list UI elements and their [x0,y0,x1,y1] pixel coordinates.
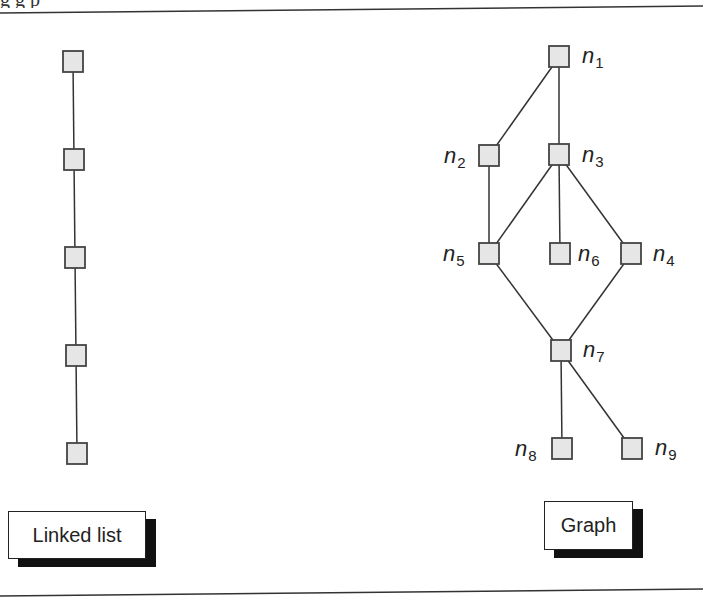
graph-nodes [479,46,642,459]
graph-node-n7 [551,340,571,361]
graph-edge [489,155,559,254]
linked-list-node-ll3 [65,247,85,268]
node-label-n7: n7 [583,337,605,365]
linked-list-edge [74,160,75,258]
node-label-n3: n3 [582,142,604,170]
node-label-n8: n8 [515,436,537,464]
bottom-rule [0,589,703,596]
top-rule [0,6,703,13]
node-label-n6: n6 [578,241,600,269]
graph-node-n6 [550,243,570,264]
graph-edge [561,351,632,449]
linked-list-edge [73,62,74,160]
figure: g g p n1n2n3n5n6n4n7n8n9 Linked list Gra… [0,0,703,603]
graph-node-n3 [549,144,569,165]
graph-node-n5 [479,243,499,264]
graph-edge [561,351,562,449]
linked-list-edge [75,258,76,356]
linked-list-nodes [63,51,87,464]
graph-label: Graph [544,501,633,550]
graph-edge [489,57,559,156]
graph-edge [559,155,560,254]
graph-node-n2 [479,145,499,166]
linked-list-label: Linked list [8,511,146,559]
graph-node-n1 [549,46,569,67]
node-label-n2: n2 [444,143,466,171]
linked-list-node-ll4 [66,345,86,366]
node-label-n1: n1 [582,43,604,71]
linked-list-label-text: Linked list [33,524,122,547]
linked-list-node-ll1 [63,51,83,72]
linked-list-node-ll2 [64,149,84,170]
graph-node-n9 [622,438,642,459]
node-label-n4: n4 [653,241,675,269]
graph-node-n8 [552,438,572,459]
linked-list-edge [76,356,77,454]
linked-list-node-ll5 [67,443,87,464]
graph-node-n4 [621,243,641,264]
node-label-n9: n9 [655,435,677,463]
graph-label-text: Graph [561,514,617,537]
graph-edge [489,254,561,351]
node-label-n5: n5 [443,241,465,269]
